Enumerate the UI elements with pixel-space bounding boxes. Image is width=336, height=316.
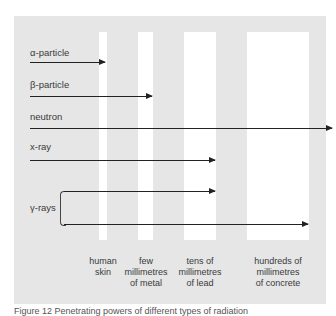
figure-caption: Figure 12 Penetrating powers of differen… — [14, 306, 248, 316]
barrier-label-concrete: hundreds of millimetres of concrete — [246, 256, 310, 289]
arrow-alpha — [30, 62, 105, 63]
barrier-label-lead: tens of millimetres of lead — [176, 256, 224, 289]
label-alpha: α-particle — [30, 47, 69, 58]
barrier-label-line: few — [124, 256, 168, 267]
label-xray: x-ray — [30, 141, 51, 152]
arrow-xray — [30, 160, 215, 161]
barrier-lead — [184, 32, 216, 240]
barrier-label-line: of metal — [124, 278, 168, 289]
barrier-label-line: tens of — [176, 256, 224, 267]
barrier-metal — [138, 32, 153, 240]
barrier-label-line: skin — [86, 267, 120, 278]
barrier-label-line: human — [86, 256, 120, 267]
barrier-label-line: millimetres — [176, 267, 224, 278]
label-beta: β-particle — [30, 79, 69, 90]
label-gamma: γ-rays — [30, 202, 56, 213]
barrier-label-skin: human skin — [86, 256, 120, 278]
barrier-label-line: millimetres — [246, 267, 310, 278]
arrow-beta — [30, 96, 152, 97]
barrier-label-line: hundreds of — [246, 256, 310, 267]
arrow-gamma-2 — [64, 224, 308, 225]
barrier-label-line: of concrete — [246, 278, 310, 289]
barrier-label-metal: few millimetres of metal — [124, 256, 168, 289]
barrier-concrete — [247, 32, 309, 240]
arrow-gamma-1 — [64, 191, 215, 192]
gamma-bracket-icon — [60, 191, 66, 226]
barrier-label-line: of lead — [176, 278, 224, 289]
barrier-label-line: millimetres — [124, 267, 168, 278]
arrow-neutron — [30, 128, 332, 129]
label-neutron: neutron — [30, 111, 62, 122]
